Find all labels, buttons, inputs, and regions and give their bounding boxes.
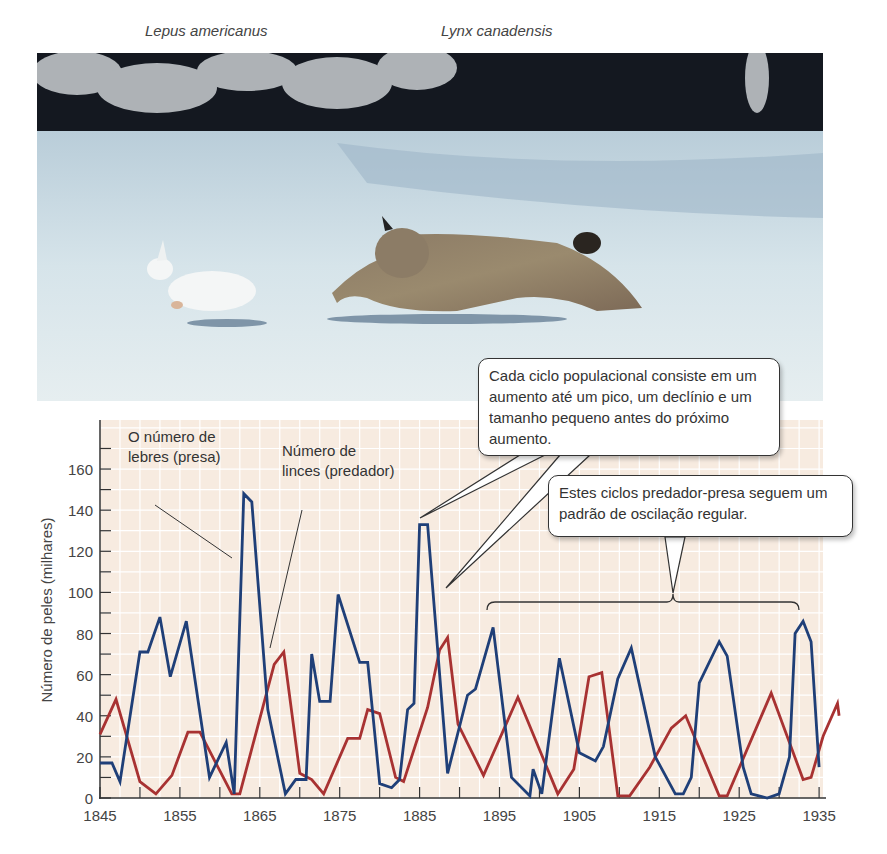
callout-oscillation: Estes ciclos predador-presa seguem um pa… — [548, 475, 853, 537]
x-tick-label: 1905 — [563, 807, 596, 824]
y-tick-label: 120 — [68, 543, 93, 560]
lynx-series-label: Número de linces (predador) — [282, 441, 395, 481]
x-tick-label: 1875 — [323, 807, 356, 824]
x-tick-label: 1855 — [163, 807, 196, 824]
x-tick-label: 1885 — [403, 807, 436, 824]
x-tick-label: 1925 — [723, 807, 756, 824]
y-tick-label: 100 — [68, 584, 93, 601]
x-tick-label: 1865 — [243, 807, 276, 824]
y-tick-label: 160 — [68, 461, 93, 478]
y-tick-label: 0 — [85, 790, 93, 807]
y-tick-label: 80 — [76, 626, 93, 643]
y-tick-label: 40 — [76, 708, 93, 725]
x-tick-label: 1845 — [83, 807, 116, 824]
x-tick-label: 1895 — [483, 807, 516, 824]
y-axis-label: Número de peles (milhares) — [38, 517, 55, 702]
callout-cycle: Cada ciclo populacional consiste em um a… — [478, 358, 780, 456]
x-tick-label: 1935 — [802, 807, 835, 824]
hare-series-label: O número de lebres (presa) — [128, 427, 221, 467]
y-tick-label: 20 — [76, 749, 93, 766]
x-tick-label: 1915 — [643, 807, 676, 824]
y-tick-label: 60 — [76, 667, 93, 684]
y-tick-label: 140 — [68, 502, 93, 519]
